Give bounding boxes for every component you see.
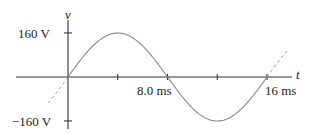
- dashed-extension-right: [267, 51, 287, 77]
- y-axis-label: v: [65, 8, 71, 21]
- y-max-label: 160 V: [18, 27, 50, 40]
- x-axis-label: t: [296, 68, 300, 81]
- x-end-label: 16 ms: [265, 84, 296, 97]
- x-mid-label: 8.0 ms: [137, 84, 172, 97]
- sine-voltage-diagram: v 160 V −160 V 8.0 ms 16 ms t: [0, 0, 314, 134]
- dashed-extension-left: [48, 77, 68, 103]
- y-min-label: −160 V: [12, 115, 51, 128]
